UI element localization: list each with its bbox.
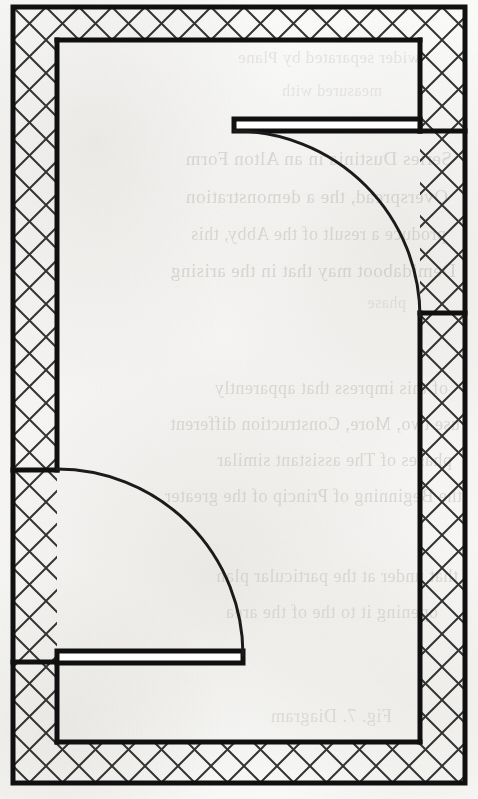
inner-wall-faces xyxy=(57,40,420,742)
lower-left-door-leaf xyxy=(57,651,243,663)
floor-plan-drawing xyxy=(0,0,478,799)
upper-right-door-leaf xyxy=(234,119,420,131)
upper-right-door-swing-arc xyxy=(234,131,420,317)
scanned-page: wider separated by Planemeasured withSer… xyxy=(0,0,478,799)
lower-left-door-swing-arc xyxy=(57,469,243,655)
upper-right-door xyxy=(234,119,420,317)
lower-left-door xyxy=(57,469,243,663)
door-jambs xyxy=(13,131,465,662)
